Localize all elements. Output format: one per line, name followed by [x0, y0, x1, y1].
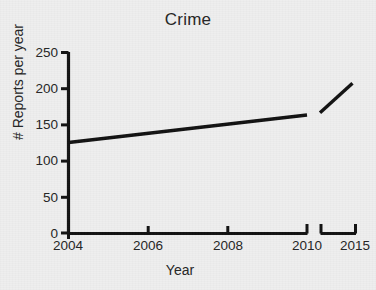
data-line-projection — [320, 83, 353, 113]
plot-area — [0, 0, 376, 290]
data-line-main — [69, 115, 308, 143]
chart-figure: Crime # Reports per year Year 250 200 15… — [0, 0, 376, 290]
